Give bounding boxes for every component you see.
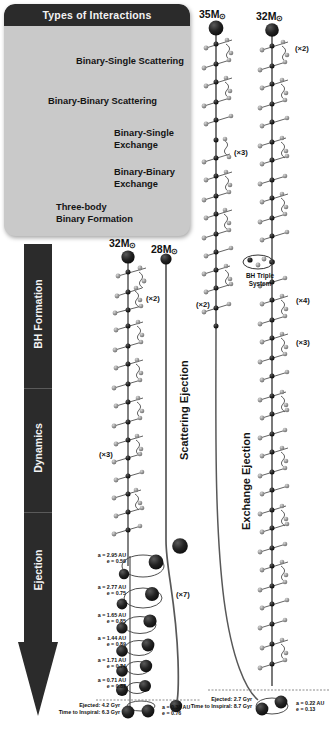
eccentricity-2: e = 0.75: [84, 590, 126, 596]
orbital-elements-1: a = 2.95 AU e = 0.59: [84, 552, 126, 564]
phase-label-bh-formation: BH Formation: [32, 275, 44, 353]
bh-triple-line-2: System: [234, 280, 286, 288]
mass-label-right-32: 32M⊙: [256, 10, 283, 22]
legend-label-three-body-l2: Binary Formation: [56, 214, 133, 225]
solar-symbol-d: ⊙: [276, 14, 283, 23]
right-spine-dots: [258, 40, 290, 671]
legend-label-three-body-l1: Three-body: [56, 202, 107, 213]
eccentricity-1: e = 0.59: [84, 558, 126, 564]
multiplier-left-2: (×3): [99, 450, 113, 459]
left-inspiral-time: Time to Inspiral: 6.3 Gyr: [58, 709, 120, 716]
right-final-bh-b: [275, 696, 288, 709]
legend-label-binary-single-exchange-l2: Exchange: [114, 140, 158, 151]
solar-symbol-a: ⊙: [129, 241, 136, 250]
phase-divider-2: [24, 512, 52, 513]
bh-35-right: [209, 21, 224, 36]
bh-32-right: [265, 23, 279, 37]
mass-value-right-35: 35M: [199, 8, 219, 20]
eccentricity-4: e = 0.89: [84, 641, 126, 647]
solar-symbol-c: ⊙: [219, 12, 226, 21]
legend-label-binary-binary-exchange-l1: Binary-Binary: [114, 167, 175, 178]
phase-label-dynamics: Dynamics: [32, 409, 44, 487]
multiplier-right-2: (×3): [234, 148, 248, 157]
legend-panel: Types of Interactions Binary-Single Scat…: [4, 4, 190, 236]
left-ejected-time: Ejected: 4.2 Gyr: [58, 702, 120, 709]
mass-value-left-32: 32M: [109, 237, 129, 249]
right-final-summary: Ejected: 2.7 Gyr Time to Inspiral: 8.7 G…: [186, 696, 252, 709]
right-final-bh-a: [256, 703, 269, 716]
multiplier-right-4: (×3): [296, 338, 310, 347]
right-inspiral-time: Time to Inspiral: 8.7 Gyr: [186, 703, 252, 710]
multiplier-right-5: (×2): [196, 300, 210, 309]
right-column-spine: [216, 30, 272, 686]
bh-triple-system-label: BH Triple System: [234, 272, 286, 287]
legend-label-binary-binary-exchange-l2: Exchange: [114, 179, 158, 190]
branch-title-scattering-ejection: Scattering Ejection: [178, 360, 190, 460]
mass-value-left-28: 28M: [151, 243, 171, 255]
legend-label-binary-single-scattering: Binary-Single Scattering: [76, 56, 184, 67]
orbital-elements-5: a = 1.71 AU e = 0.74: [84, 657, 126, 669]
legend-label-binary-single-exchange-l1: Binary-Single: [114, 128, 174, 139]
orbital-elements-2: a = 2.77 AU e = 0.75: [84, 584, 126, 596]
orbital-elements-3: a = 1.65 AU e = 0.85: [84, 612, 126, 624]
phase-arrow: BH Formation Dynamics Ejection: [18, 244, 58, 716]
solar-symbol-b: ⊙: [171, 247, 178, 256]
ejected-bh-left: [172, 538, 188, 554]
eccentricity-6: e = 0.87: [84, 683, 126, 689]
branch-title-exchange-ejection: Exchange Ejection: [240, 432, 252, 530]
orbital-elements-6: a = 0.71 AU e = 0.87: [84, 677, 126, 689]
phase-divider-1: [24, 388, 52, 389]
right-ejected-time: Ejected: 2.7 Gyr: [186, 696, 252, 703]
bh-32-left: [121, 250, 134, 263]
legend-title: Types of Interactions: [42, 9, 151, 21]
multiplier-right-3: (×4): [296, 296, 310, 305]
eccentricity-5: e = 0.74: [84, 663, 126, 669]
left-dots: [112, 266, 147, 537]
left-ejection-track: [166, 540, 178, 706]
bh-28-left: [160, 253, 171, 264]
orbital-elements-4: a = 1.44 AU e = 0.89: [84, 635, 126, 647]
right-final-e: e = 0.13: [296, 706, 335, 712]
bh-triple-line-1: BH Triple: [234, 272, 286, 280]
left-final-summary: Ejected: 4.2 Gyr Time to Inspiral: 6.3 G…: [58, 702, 120, 715]
phase-arrow-head: [18, 642, 58, 716]
right-final-orbit-elements: a = 0.22 AU e = 0.13: [296, 700, 335, 712]
mass-value-right-32: 32M: [256, 10, 276, 22]
multiplier-right-1: (×2): [295, 44, 309, 53]
phase-label-ejection: Ejection: [32, 531, 44, 609]
legend-label-binary-binary-scattering: Binary-Binary Scattering: [48, 96, 157, 107]
diagram-canvas: Types of Interactions Binary-Single Scat…: [0, 0, 335, 730]
multiplier-left-1: (×2): [146, 294, 160, 303]
mass-label-left-32: 32M⊙: [109, 237, 136, 249]
legend-header: Types of Interactions: [4, 4, 190, 26]
multiplier-left-3: (×7): [176, 590, 190, 599]
eccentricity-3: e = 0.85: [84, 618, 126, 624]
mass-label-left-28: 28M⊙: [151, 243, 178, 255]
left-final-e: e = 0.76: [162, 710, 204, 716]
mass-label-right-35: 35M⊙: [199, 8, 226, 20]
